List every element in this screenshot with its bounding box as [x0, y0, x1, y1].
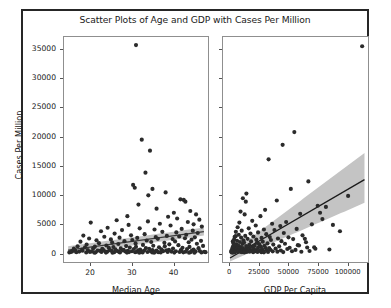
scatter-point	[133, 186, 137, 190]
scatter-point	[270, 222, 274, 226]
scatter-point	[148, 149, 152, 153]
scatter-point	[137, 251, 141, 255]
scatter-point	[275, 250, 279, 254]
scatter-point	[244, 191, 248, 195]
scatter-point	[116, 242, 120, 246]
scatter-point	[289, 187, 293, 191]
scatter-point	[297, 243, 301, 247]
scatter-point	[194, 212, 198, 216]
scatter-point	[102, 235, 106, 239]
scatter-point	[327, 247, 331, 251]
scatter-point	[106, 226, 110, 230]
figure-canvas: Scatter Plots of Age and GDP with Cases …	[0, 0, 391, 308]
scatter-point	[240, 229, 244, 233]
scatter-point	[104, 251, 108, 255]
scatter-point	[146, 193, 150, 197]
scatter-point	[155, 207, 159, 211]
scatter-point	[197, 218, 201, 222]
scatter-point	[166, 250, 170, 254]
scatter-point	[78, 240, 82, 244]
scatter-point	[183, 200, 187, 204]
scatter-point	[149, 240, 153, 244]
x-axis-tick-label: 100000	[318, 268, 378, 276]
scatter-point	[141, 243, 145, 247]
scatter-point	[124, 244, 128, 248]
scatter-point	[282, 231, 286, 235]
scatter-point	[110, 240, 114, 244]
scatter-point	[145, 250, 149, 254]
scatter-point	[84, 250, 88, 254]
scatter-point	[166, 215, 170, 219]
scatter-point	[156, 237, 160, 241]
scatter-point	[152, 251, 156, 255]
scatter-point	[175, 216, 179, 220]
scatter-point	[92, 251, 96, 255]
scatter-point	[290, 249, 294, 253]
scatter-point	[284, 220, 288, 224]
scatter-point	[261, 240, 265, 244]
scatter-point	[152, 227, 156, 231]
y-axis-tick-label: 30000	[12, 73, 56, 82]
scatter-point	[286, 235, 290, 239]
scatter-point	[74, 250, 78, 254]
scatter-point	[115, 218, 119, 222]
scatter-point	[172, 211, 176, 215]
scatter-point	[241, 196, 245, 200]
scatter-point	[255, 250, 259, 254]
scatter-point	[281, 250, 285, 254]
scatter-point	[129, 233, 133, 237]
scatter-point	[324, 205, 328, 209]
y-axis-tick-label: 35000	[12, 44, 56, 53]
scatter-point	[176, 243, 180, 247]
scatter-point	[150, 187, 154, 191]
scatter-point	[122, 239, 126, 243]
scatter-point	[165, 234, 169, 238]
scatter-point	[276, 236, 280, 240]
scatter-point	[163, 244, 167, 248]
x-axis-tick-mark	[348, 263, 349, 266]
scatter-point	[187, 240, 191, 244]
scatter-point	[195, 242, 199, 246]
scatter-point	[136, 203, 140, 207]
scatter-point	[237, 220, 241, 224]
scatter-point	[158, 222, 162, 226]
scatter-point	[300, 233, 304, 237]
x-axis-label-gdp-per-capita: GDP Per Capita	[215, 285, 375, 295]
scatter-point	[298, 212, 302, 216]
scatter-point	[174, 230, 178, 234]
scatter-point	[186, 220, 190, 224]
y-axis-tick-label: 20000	[12, 132, 56, 141]
x-axis-tick-mark	[259, 263, 260, 266]
scatter-point	[238, 209, 242, 213]
scatter-point	[172, 250, 176, 254]
scatter-point	[173, 239, 177, 243]
scatter-point	[99, 250, 103, 254]
scatter-point	[181, 250, 185, 254]
scatter-point	[243, 212, 247, 216]
scatter-point	[133, 250, 137, 254]
scatter-plot-right	[223, 37, 368, 262]
scatter-point	[283, 242, 287, 246]
scatter-plot-left	[64, 37, 208, 262]
scatter-point	[291, 237, 295, 241]
page-title: Scatter Plots of Age and GDP with Cases …	[21, 14, 369, 25]
scatter-point	[110, 251, 114, 255]
scatter-point	[130, 238, 134, 242]
x-axis-tick-mark	[90, 263, 91, 266]
scatter-point	[295, 227, 299, 231]
x-axis-tick-mark	[288, 263, 289, 266]
scatter-point	[201, 244, 205, 248]
scatter-point	[269, 238, 273, 242]
scatter-point	[346, 194, 350, 198]
scatter-point	[151, 244, 155, 248]
scatter-point	[316, 204, 320, 208]
scatter-point	[192, 222, 196, 226]
scatter-point	[178, 250, 182, 254]
scatter-point	[231, 239, 235, 243]
scatter-point	[271, 243, 275, 247]
x-axis-tick-mark	[132, 263, 133, 266]
scatter-point	[199, 250, 203, 254]
scatter-point	[275, 198, 279, 202]
scatter-point	[88, 250, 92, 254]
scatter-point	[236, 225, 240, 229]
